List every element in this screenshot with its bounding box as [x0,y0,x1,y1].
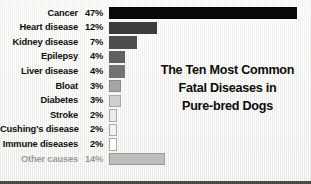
bar-value-label: 2% [78,111,104,120]
bar-row: Heart disease12% [0,21,311,36]
bar-category-label: Heart disease [0,23,78,32]
bar-value-label: 3% [78,82,104,91]
chart-title-line: The Ten Most Common [150,62,305,80]
bar-value-label: 4% [78,67,104,76]
bar-category-label: Immune diseases [0,140,78,149]
bar-track [109,123,311,138]
bar-value-label: 47% [78,9,104,18]
bar-track [109,137,311,152]
bar-row: Immune diseases2% [0,137,311,152]
bar-value-label: 7% [78,38,104,47]
bar-category-label: Diabetes [0,96,78,105]
bar [109,124,117,136]
bar [109,109,117,121]
bar-track [109,152,311,167]
bar-category-label: Epilepsy [0,52,78,61]
bar [109,51,125,63]
bar-category-label: Liver disease [0,67,78,76]
bar [109,80,121,92]
bar-value-label: 2% [78,140,104,149]
bar [109,65,125,77]
bar-row: Cushing's disease2% [0,123,311,138]
bar [109,95,121,107]
bar-value-label: 4% [78,52,104,61]
bar-category-label: Cancer [0,9,78,18]
chart-title: The Ten Most CommonFatal Diseases inPure… [150,62,305,116]
bar-track [109,6,311,21]
chart-title-line: Fatal Diseases in [150,80,305,98]
bar [109,7,297,19]
bar-row: Kidney disease7% [0,35,311,50]
bar-track [109,35,311,50]
bar-category-label: Cushing's disease [0,125,78,134]
bar-value-label: 2% [78,125,104,134]
bar [109,138,117,150]
bar [109,153,165,165]
bar-track [109,21,311,36]
bar-category-label: Kidney disease [0,38,78,47]
bar-value-label: 12% [78,23,104,32]
bar-row: Cancer47% [0,6,311,21]
bar-value-label: 3% [78,96,104,105]
bar [109,36,137,48]
bar-chart-figure: Cancer47%Heart disease12%Kidney disease7… [0,0,311,184]
bar-value-label: 14% [78,155,104,164]
bar-category-label: Other causes [0,155,78,164]
bar-row: Other causes14% [0,152,311,167]
bar [109,22,157,34]
bar-category-label: Stroke [0,111,78,120]
chart-title-line: Pure-bred Dogs [150,98,305,116]
bar-category-label: Bloat [0,82,78,91]
